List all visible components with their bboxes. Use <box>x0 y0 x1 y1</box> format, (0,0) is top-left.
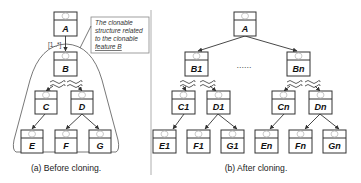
node-f1: F1 <box>187 130 210 153</box>
edge-b1-d1 <box>210 86 216 91</box>
wave-bn-cn-1 <box>287 81 302 84</box>
node-f: F <box>55 130 77 153</box>
wave-b1-c1-2 <box>180 85 195 88</box>
svg-text:G1: G1 <box>226 141 238 151</box>
note-connector <box>80 26 91 48</box>
caption-before: (a) Before cloning. <box>31 163 101 173</box>
right-panel: ...... A B1 <box>153 12 346 173</box>
ellipsis: ...... <box>236 60 251 70</box>
wave-bn-dn-1 <box>305 81 320 84</box>
wave-bn-dn-2 <box>305 85 320 88</box>
edge-d1-g1 <box>218 114 237 129</box>
edge-c1-e1 <box>173 114 184 129</box>
edge-b1-c1 <box>183 86 186 91</box>
wave-b1-c1-1 <box>180 81 195 84</box>
caption-after: (b) After cloning. <box>225 163 288 173</box>
node-b: B <box>54 52 77 76</box>
note-line-3: to the clonable <box>95 35 138 42</box>
node-c: C <box>35 91 57 114</box>
edge-c-e <box>32 114 45 129</box>
node-dn: Dn <box>309 91 332 114</box>
svg-text:C1: C1 <box>178 102 190 112</box>
svg-text:B1: B1 <box>191 64 203 74</box>
edge-b-d <box>78 86 82 91</box>
edge-a-bn <box>245 36 297 51</box>
edge-bn-dn <box>315 86 320 91</box>
svg-text:B: B <box>62 64 69 74</box>
node-a-clone-root: A <box>234 12 256 36</box>
node-g: G <box>89 130 111 153</box>
node-d1: D1 <box>207 91 230 114</box>
svg-text:F: F <box>63 141 69 151</box>
svg-text:D: D <box>79 102 86 112</box>
svg-text:A: A <box>61 24 69 34</box>
svg-text:Cn: Cn <box>278 102 290 112</box>
wave-b-d-2 <box>67 85 82 88</box>
node-en: En <box>255 130 278 153</box>
node-a: A <box>54 12 77 36</box>
edge-d1-f1 <box>205 114 218 129</box>
svg-text:En: En <box>261 141 273 151</box>
svg-text:E1: E1 <box>159 141 170 151</box>
node-e1: E1 <box>153 130 176 153</box>
node-e: E <box>21 130 43 153</box>
edge-a-b1 <box>198 36 245 51</box>
edge-d-g <box>82 114 99 129</box>
cloning-diagram: The clonable structure related to the cl… <box>0 0 361 183</box>
edge-b-c <box>46 86 53 91</box>
node-b1: B1 <box>185 52 208 76</box>
node-fn: Fn <box>289 130 312 153</box>
note-line-1: The clonable <box>95 19 133 26</box>
note-line-2: structure related <box>95 27 143 34</box>
note-line-4: feature B <box>95 43 122 50</box>
svg-text:E: E <box>29 141 36 151</box>
svg-text:C: C <box>43 102 50 112</box>
node-g1: G1 <box>221 130 244 153</box>
edge-cn-en <box>270 114 284 129</box>
wave-b1-d1-2 <box>200 85 215 88</box>
edge-d-f <box>66 114 82 129</box>
node-cn: Cn <box>272 91 295 114</box>
svg-text:F1: F1 <box>193 141 204 151</box>
node-d: D <box>71 91 93 114</box>
svg-text:A: A <box>241 24 249 34</box>
node-gn: Gn <box>323 130 346 153</box>
multiplicity-label: [1..*] <box>48 41 62 49</box>
edge-dn-gn <box>320 114 339 129</box>
svg-text:D1: D1 <box>213 102 225 112</box>
svg-text:Bn: Bn <box>293 64 305 74</box>
wave-b-c-1 <box>50 81 65 84</box>
wave-b1-d1-1 <box>200 81 215 84</box>
node-bn: Bn <box>287 52 310 76</box>
left-panel: The clonable structure related to the cl… <box>13 12 149 173</box>
edge-bn-cn <box>284 86 290 91</box>
svg-text:Gn: Gn <box>328 141 341 151</box>
wave-b-d-1 <box>67 81 82 84</box>
svg-text:G: G <box>96 141 103 151</box>
node-c1: C1 <box>172 91 195 114</box>
svg-text:Dn: Dn <box>315 102 327 112</box>
edge-dn-fn <box>305 114 320 129</box>
svg-text:Fn: Fn <box>295 141 306 151</box>
